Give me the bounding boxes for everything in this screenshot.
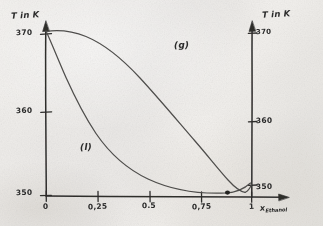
x-axis-tick-1: 1	[249, 203, 255, 211]
x-axis-tick-0-5: 0.5	[142, 202, 156, 210]
left-axis-title: T in K	[11, 10, 40, 20]
gas-phase-label: (g)	[174, 41, 190, 51]
handwritten-phase-diagram-figure: T in K 370 360 350 T in K 370 360 350 0 …	[0, 0, 323, 226]
left-axis-tick-350: 350	[16, 189, 33, 197]
dew-curve-vapour	[46, 31, 245, 193]
x-axis-tick-0-75: 0,75	[192, 203, 212, 211]
left-axis-tick-360: 360	[16, 107, 33, 115]
x-axis-title-subscript: Ethanol	[265, 206, 287, 213]
left-axis-tick-370: 370	[16, 29, 33, 37]
right-axis-tick-360: 360	[256, 117, 273, 125]
right-axis-tick-350: 350	[256, 183, 273, 191]
x-axis-tick-0-25: 0,25	[88, 203, 108, 211]
azeotrope-point-marker	[225, 191, 230, 195]
x-axis-tick-0: 0	[43, 203, 49, 211]
right-axis-line	[249, 21, 256, 197]
plot-canvas	[0, 0, 323, 226]
azeotrope-tail-segment	[226, 183, 251, 193]
x-axis-title: xEthanol	[260, 203, 287, 212]
liquid-phase-label: (l)	[80, 143, 92, 152]
right-axis-tick-370: 370	[256, 29, 271, 37]
left-axis-line	[43, 21, 50, 196]
bubble-curve-liquid	[46, 31, 226, 193]
right-axis-title: T in K	[262, 9, 291, 19]
